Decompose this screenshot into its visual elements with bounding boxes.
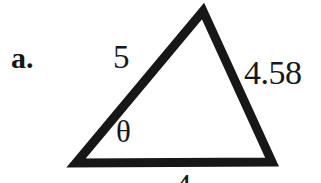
triangle-outline	[76, 11, 272, 163]
side-length-label-left: 5	[113, 41, 130, 74]
side-length-label-right: 4.58	[244, 56, 302, 90]
figure-container: a. 5 4.58 θ 4	[0, 0, 321, 183]
angle-theta-label: θ	[116, 116, 131, 147]
figure-item-label: a.	[11, 43, 34, 73]
triangle-shape	[0, 0, 321, 183]
side-length-label-bottom: 4	[175, 170, 192, 183]
